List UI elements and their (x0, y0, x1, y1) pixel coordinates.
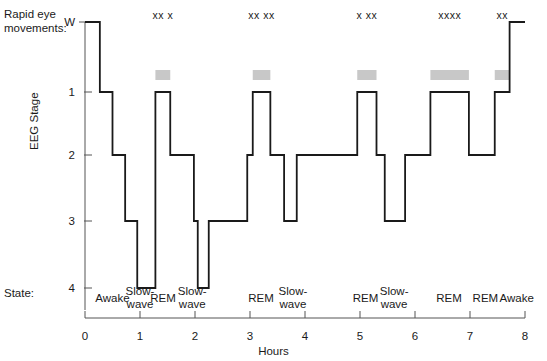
y-tick-label-1: 1 (55, 86, 75, 98)
state-annotation-11: Awake (500, 292, 534, 305)
x-tick-label-3: 3 (247, 330, 253, 342)
x-tick-label-0: 0 (82, 330, 88, 342)
rem-marks-2: xx xx (248, 9, 274, 21)
rem-bar-4 (430, 70, 469, 80)
x-tick-label-1: 1 (137, 330, 143, 342)
state-annotation-1: Awake (95, 292, 129, 305)
state-annotation-10: REM (473, 292, 499, 305)
axes-group (79, 22, 525, 318)
y-tick-label-2: 2 (55, 149, 75, 161)
rem-marks-5: xx (496, 9, 508, 21)
state-annotation-4: Slow- wave (178, 285, 207, 310)
x-tick-label-8: 8 (522, 330, 528, 342)
eeg-stage-trace (85, 22, 525, 288)
state-annotation-9: REM (436, 292, 462, 305)
state-annotation-7: REM (353, 292, 379, 305)
x-tick-label-4: 4 (302, 330, 308, 342)
sleep-hypnogram-chart: Rapid eye movements: EEG Stage State: Ho… (0, 0, 547, 361)
state-annotation-5: REM (248, 292, 274, 305)
rem-marks-1: xx x (152, 9, 173, 21)
rem-bar-5 (495, 70, 510, 80)
rem-bar-1 (155, 70, 170, 80)
state-annotation-6: Slow- wave (279, 285, 308, 310)
y-tick-label-3: 3 (55, 215, 75, 227)
rem-bar-group (155, 70, 509, 80)
y-tick-label-W: W (55, 16, 75, 28)
rem-bar-2 (253, 70, 271, 80)
y-tick-label-4: 4 (55, 282, 75, 294)
x-tick-label-6: 6 (412, 330, 418, 342)
rem-marks-3: x xx (357, 9, 378, 21)
x-tick-label-7: 7 (467, 330, 473, 342)
x-tick-label-5: 5 (357, 330, 363, 342)
state-annotation-3: REM (150, 292, 176, 305)
state-annotation-8: Slow- wave (380, 285, 409, 310)
rem-marks-4: xxxx (438, 9, 461, 21)
x-tick-label-2: 2 (192, 330, 198, 342)
rem-bar-3 (357, 70, 376, 80)
hypnogram-plot (0, 0, 547, 361)
